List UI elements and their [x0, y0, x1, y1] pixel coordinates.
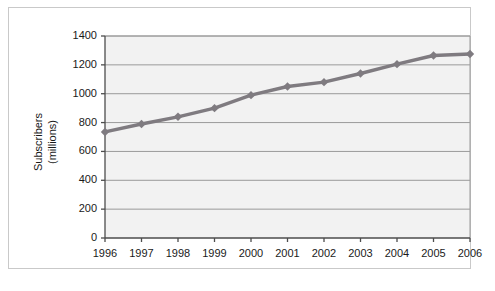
x-axis-tick-label: 1997 [122, 247, 162, 259]
x-axis-tick-label: 2004 [377, 247, 417, 259]
y-axis-title: Subscribers (millions) [18, 84, 58, 204]
y-axis-title-line1: Subscribers [32, 82, 44, 202]
x-axis-tick-label: 2001 [268, 247, 308, 259]
y-axis-tick-label: 1400 [53, 29, 97, 41]
x-axis-tick-label: 2006 [450, 247, 490, 259]
x-axis-tick-label: 2000 [231, 247, 271, 259]
plot-area-background [105, 36, 470, 238]
x-axis-tick-label: 1999 [195, 247, 235, 259]
x-axis-tick-label: 2002 [304, 247, 344, 259]
y-axis-tick-label: 1200 [53, 58, 97, 70]
x-axis-tick-label: 2005 [414, 247, 454, 259]
y-axis-tick-label: 1000 [53, 87, 97, 99]
y-axis-tick-label: 400 [53, 173, 97, 185]
x-axis-tick-label: 1996 [85, 247, 125, 259]
y-axis-tick-label: 800 [53, 116, 97, 128]
y-axis-tick-label: 600 [53, 144, 97, 156]
y-axis-tick-label: 0 [53, 231, 97, 243]
y-axis-tick-label: 200 [53, 202, 97, 214]
x-axis-tick-label: 1998 [158, 247, 198, 259]
x-axis-tick-label: 2003 [341, 247, 381, 259]
